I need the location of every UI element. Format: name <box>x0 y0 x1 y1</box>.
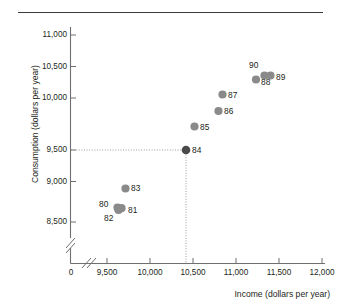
y-tick-label-9500: 9,500 <box>12 145 67 154</box>
x-axis-title: Income (dollars per year) <box>200 283 330 301</box>
data-label-89: 89 <box>276 72 285 82</box>
y-tick-label-10000: 10,000 <box>12 93 67 102</box>
scatter-chart-figure: Consumption (dollars per year) Income (d… <box>0 0 337 306</box>
data-label-85: 85 <box>200 122 209 132</box>
data-label-82: 82 <box>104 213 113 223</box>
data-label-80: 80 <box>99 199 108 209</box>
y-axis-break-mark-1 <box>66 238 75 248</box>
y-tick-label-10500: 10,500 <box>12 62 67 71</box>
y-tick-label-9000: 9,000 <box>12 177 67 186</box>
data-label-90: 90 <box>249 60 258 70</box>
x-tick-label-9500: 9,500 <box>87 268 127 277</box>
y-axis-title-text: Consumption (dollars per year) <box>30 65 40 183</box>
data-point-88 <box>252 75 260 83</box>
data-point-87 <box>218 90 226 98</box>
data-point-85 <box>190 122 198 130</box>
x-tick-label-11500: 11,500 <box>257 268 301 277</box>
data-label-88: 88 <box>261 77 270 87</box>
y-tick-label-11000: 11,000 <box>12 30 67 39</box>
x-tick-label-0: 0 <box>60 268 82 277</box>
data-point-84 <box>182 146 191 155</box>
x-tick-label-10500: 10,500 <box>171 268 215 277</box>
data-label-81: 81 <box>128 205 137 215</box>
data-label-83: 83 <box>131 183 140 193</box>
data-point-86 <box>214 107 222 115</box>
x-tick-label-12000: 12,000 <box>300 268 337 277</box>
y-tick-label-8500: 8,500 <box>12 217 67 226</box>
x-tick-label-10000: 10,000 <box>128 268 172 277</box>
data-label-86: 86 <box>224 106 233 116</box>
x-tick-label-11000: 11,000 <box>214 268 258 277</box>
data-label-84: 84 <box>192 145 201 155</box>
y-axis-title: Consumption (dollars per year) <box>24 29 42 219</box>
data-label-87: 87 <box>228 90 237 100</box>
data-point-82 <box>114 206 122 214</box>
x-axis-title-text: Income (dollars per year) <box>234 289 330 299</box>
data-point-83 <box>121 184 129 192</box>
